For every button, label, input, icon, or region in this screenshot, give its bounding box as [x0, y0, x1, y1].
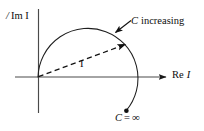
- c-increasing-symbol-glyph: C: [131, 15, 138, 26]
- c-infinity-equals-glyph: =: [124, 112, 130, 123]
- imaginary-axis-prefix-glyph: /: [6, 10, 9, 21]
- current-vector-label: I: [80, 59, 84, 70]
- c-increasing-label: Cincreasing: [131, 16, 184, 27]
- infinity-glyph: ∞: [132, 111, 140, 123]
- real-axis-symbol-glyph: I: [187, 69, 191, 80]
- current-locus-arc: [38, 28, 138, 110]
- real-axis-label: ReI: [172, 70, 190, 81]
- c-infinity-symbol-glyph: C: [115, 112, 122, 123]
- c-increasing-word-text: increasing: [141, 15, 184, 26]
- imaginary-axis-label: /Im I: [6, 11, 29, 22]
- real-axis-prefix-text: Re: [172, 69, 184, 80]
- complex-plane-phasor-diagram: /Im I ReI Cincreasing I C=∞: [0, 0, 204, 131]
- c-increasing-leader-line: [116, 21, 132, 33]
- c-infinity-label: C=∞: [115, 112, 140, 124]
- imaginary-axis-text: Im I: [11, 10, 29, 21]
